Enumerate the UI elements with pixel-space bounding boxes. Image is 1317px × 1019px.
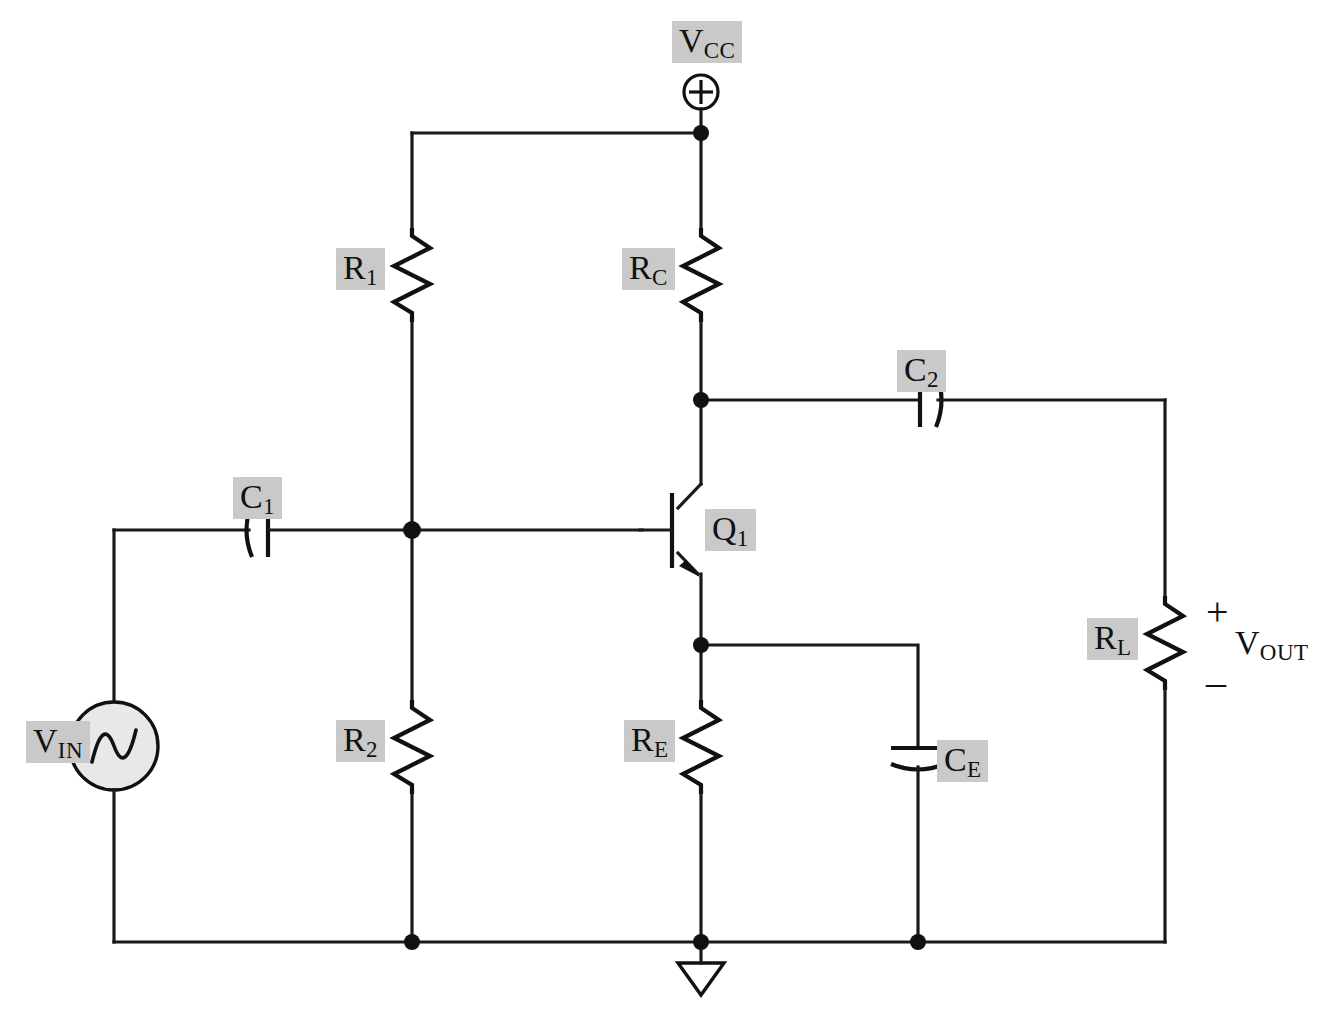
vcc-terminal-symbol bbox=[684, 75, 718, 133]
label-vcc: VCC bbox=[672, 21, 742, 63]
resistor-re-symbol bbox=[683, 700, 719, 794]
transistor-q1-symbol bbox=[640, 484, 701, 645]
junction-dot-collector bbox=[693, 392, 709, 408]
circuit-diagram-canvas: VCC R1 RC C2 C1 Q1 R2 RE CE RL VIN VOUT … bbox=[0, 0, 1317, 1019]
schematic-svg bbox=[0, 0, 1317, 1019]
junction-dot-base bbox=[403, 521, 421, 539]
junction-dot-vcc bbox=[693, 125, 709, 141]
label-c2: C2 bbox=[897, 350, 946, 392]
junction-dot-gnd-re bbox=[693, 934, 709, 950]
wire-ce-top bbox=[701, 645, 918, 745]
label-r2: R2 bbox=[336, 720, 385, 762]
resistor-r2-symbol bbox=[394, 700, 430, 794]
label-q1: Q1 bbox=[705, 509, 756, 551]
resistor-r1-symbol bbox=[394, 228, 430, 322]
polarity-plus: + bbox=[1206, 592, 1229, 632]
junction-dot-gnd-ce bbox=[910, 934, 926, 950]
label-c1: C1 bbox=[233, 477, 282, 519]
resistor-rl-symbol bbox=[1147, 596, 1183, 690]
resistor-rc-symbol bbox=[683, 228, 719, 322]
label-vin: VIN bbox=[26, 721, 90, 763]
label-ce: CE bbox=[937, 740, 988, 782]
label-rl: RL bbox=[1087, 618, 1138, 660]
label-r1: R1 bbox=[336, 248, 385, 290]
label-vout: VOUT bbox=[1235, 626, 1309, 660]
label-rc: RC bbox=[622, 248, 675, 290]
polarity-minus: – bbox=[1206, 662, 1226, 702]
label-re: RE bbox=[624, 720, 675, 762]
junction-dot-gnd-r2 bbox=[404, 934, 420, 950]
junction-dot-emitter bbox=[693, 637, 709, 653]
